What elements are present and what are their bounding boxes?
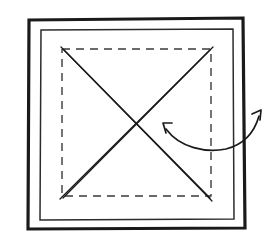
figure-root xyxy=(0,0,276,247)
diagram-canvas xyxy=(0,0,276,247)
